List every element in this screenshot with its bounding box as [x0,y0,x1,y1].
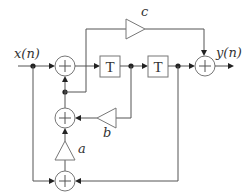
arrow-icon [189,63,195,69]
svg-text:T: T [153,59,162,75]
arrow-icon [62,76,68,82]
svg-text:T: T [105,59,114,75]
gain-a-triangle [55,141,75,160]
adder-bottom [55,171,75,191]
arrow-icon [49,63,55,69]
adder-output [195,56,215,76]
arrow-icon [49,178,55,184]
arrow-icon [94,63,100,69]
arrow-icon [75,115,81,121]
gain-c-label: c [141,4,149,19]
arrow-icon [201,50,207,56]
arrow-icon [228,63,234,69]
arrow-icon [75,178,81,184]
block-diagram: x(n) c T b [0,0,249,195]
output-label: y(n) [215,45,242,60]
adder-top [55,56,75,76]
gain-a-label: a [78,141,86,156]
arrow-icon [142,63,148,69]
gain-b-label: b [103,125,111,140]
arrow-icon [62,128,68,134]
delay-2-block: T [148,56,168,77]
adder-middle [55,108,75,128]
input-label: x(n) [14,46,40,61]
gain-c-triangle [126,19,145,39]
delay-1-block: T [100,56,120,77]
